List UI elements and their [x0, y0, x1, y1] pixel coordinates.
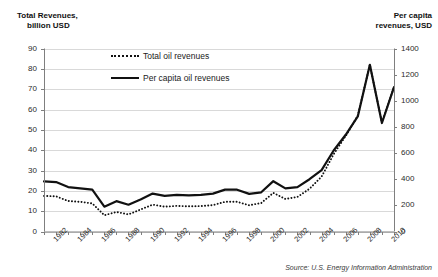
series-line-2 [44, 65, 394, 207]
left-axis-tick-label: 80 [15, 65, 37, 73]
legend-item-total-oil-revenues: Total oil revenues [111, 51, 209, 61]
source-note: Source: U.S. Energy Information Administ… [285, 264, 432, 271]
left-axis-tick-label: 40 [15, 146, 37, 154]
left-axis-tick-label: 30 [15, 167, 37, 175]
left-axis-tick-label: 60 [15, 106, 37, 114]
left-axis-title-line1: Total Revenues, [17, 11, 78, 21]
oil-revenues-chart: Total Revenues, billion USD Per capita r… [0, 0, 438, 277]
legend-label-total-oil-revenues: Total oil revenues [143, 51, 209, 61]
legend-solid-line-icon [111, 75, 139, 82]
legend-dotted-line-icon [111, 53, 139, 60]
legend-label-per-capita-oil-revenues: Per capita oil revenues [143, 73, 229, 83]
right-axis-title: Per capita revenues, USD [376, 11, 432, 31]
left-axis-title: Total Revenues, billion USD [17, 11, 78, 31]
left-axis-tick-label: 0 [15, 228, 37, 236]
right-axis-tick-label: 600 [401, 149, 427, 157]
right-axis-tick-label: 1400 [401, 45, 427, 53]
right-axis-tick-label: 800 [401, 123, 427, 131]
right-axis-tick-label: 1200 [401, 71, 427, 79]
left-axis-title-line2: billion USD [17, 21, 78, 31]
left-axis-tick-label: 70 [15, 85, 37, 93]
left-axis-tick-label: 90 [15, 45, 37, 53]
right-axis-title-line1: Per capita [376, 11, 432, 21]
right-axis-tick-label: 1000 [401, 97, 427, 105]
legend-item-per-capita-oil-revenues: Per capita oil revenues [111, 73, 229, 83]
right-axis-tick-label: 400 [401, 175, 427, 183]
left-axis-tick-label: 10 [15, 207, 37, 215]
left-axis-tick-label: 20 [15, 187, 37, 195]
right-axis-tick-label: 200 [401, 201, 427, 209]
left-axis-tick-marks [41, 50, 44, 233]
left-axis-tick-label: 50 [15, 126, 37, 134]
data-series-paths [44, 65, 394, 215]
right-axis-title-line2: revenues, USD [376, 21, 432, 31]
